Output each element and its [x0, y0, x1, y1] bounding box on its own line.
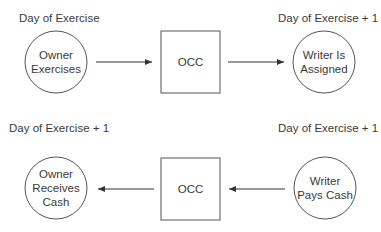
node-text-line: Assigned — [300, 62, 347, 76]
node-text-line: Pays Cash — [297, 188, 353, 202]
owner-exercises-node: Owner Exercises — [25, 31, 87, 93]
occ-node-bottom: OCC — [161, 158, 220, 220]
occ-node-top: OCC — [161, 31, 220, 93]
node-text-line: Writer — [310, 174, 340, 188]
node-text-line: Cash — [43, 195, 70, 209]
node-text-line: Writer Is — [303, 48, 346, 62]
writer-assigned-node: Writer Is Assigned — [293, 31, 355, 93]
label-day-of-exercise-plus-1-bottom-left: Day of Exercise + 1 — [9, 121, 109, 135]
writer-pays-cash-node: Writer Pays Cash — [294, 157, 356, 219]
label-day-of-exercise-plus-1-bottom-right: Day of Exercise + 1 — [278, 121, 378, 135]
owner-receives-cash-node: Owner Receives Cash — [25, 157, 87, 219]
node-text-line: OCC — [178, 55, 204, 69]
node-text-line: OCC — [178, 182, 204, 196]
node-text-line: Receives — [32, 181, 79, 195]
node-text-line: Owner — [39, 48, 73, 62]
node-text-line: Exercises — [31, 62, 81, 76]
node-text-line: Owner — [39, 167, 73, 181]
label-day-of-exercise-plus-1-top: Day of Exercise + 1 — [278, 11, 378, 25]
label-day-of-exercise: Day of Exercise — [19, 11, 100, 25]
